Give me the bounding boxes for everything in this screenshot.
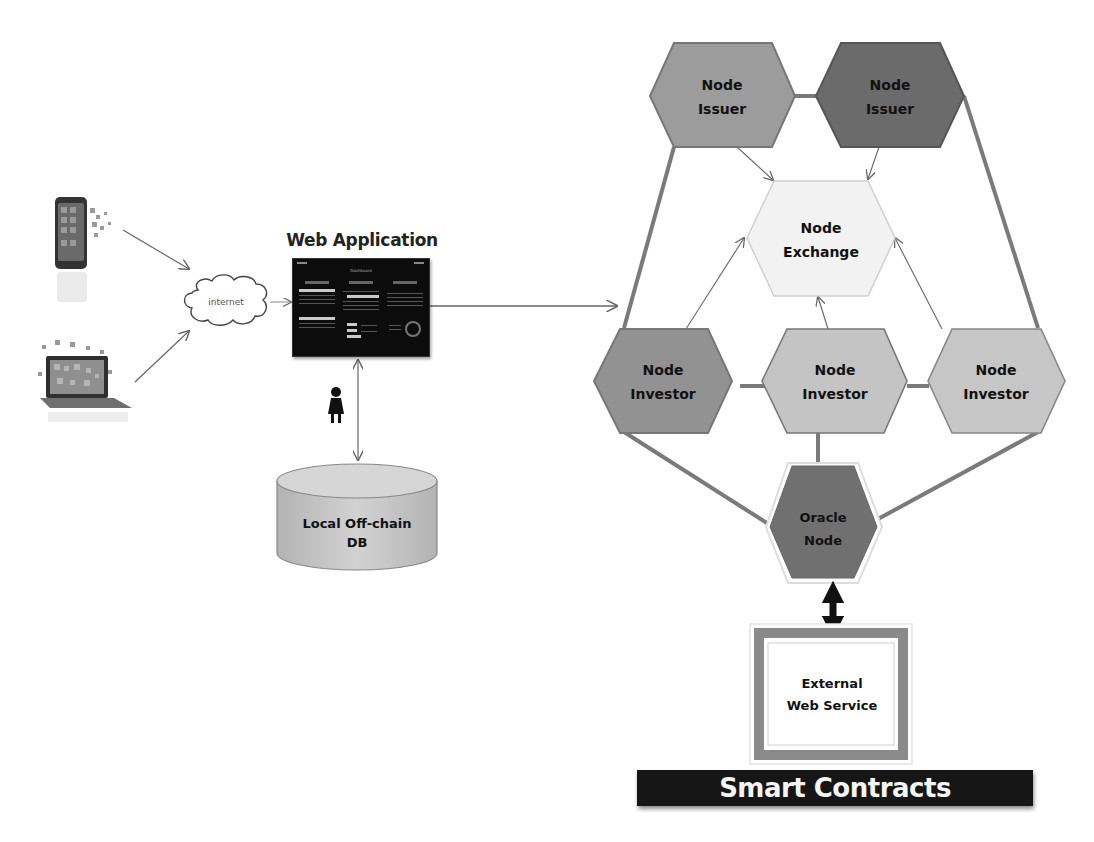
svg-text:Node: Node <box>643 362 684 378</box>
smart-contracts-bar: Smart Contracts <box>637 770 1033 806</box>
svg-text:Node: Node <box>870 77 911 93</box>
webapp-panel-left <box>299 281 335 345</box>
external-web-service-box: External Web Service <box>750 624 912 764</box>
node-issuer-right: Node Issuer <box>816 43 964 147</box>
laptop-icon <box>38 340 132 422</box>
svg-text:Node: Node <box>801 220 842 236</box>
web-application-title: Web Application <box>282 230 442 250</box>
database-cylinder: Local Off-chain DB <box>277 464 437 570</box>
webapp-donut-chart <box>405 321 421 337</box>
svg-text:Issuer: Issuer <box>866 101 914 117</box>
web-application-screenshot: Dashboard <box>292 258 430 357</box>
network-links <box>624 96 1038 525</box>
external-service-line1: External <box>801 676 862 691</box>
node-investor-middle: Node Investor <box>762 329 907 433</box>
webapp-panel-right <box>387 281 423 345</box>
external-service-line2: Web Service <box>787 698 878 713</box>
webapp-menu-icon <box>414 262 424 264</box>
internet-label: internet <box>208 297 244 307</box>
node-issuer-left: Node Issuer <box>650 43 795 147</box>
webapp-logo <box>297 262 307 264</box>
webapp-panel-middle <box>343 281 379 345</box>
svg-text:Node: Node <box>976 362 1017 378</box>
node-exchange: Node Exchange <box>747 181 895 296</box>
smartphone-icon <box>55 197 111 302</box>
svg-text:Node: Node <box>702 77 743 93</box>
svg-text:Oracle: Oracle <box>799 510 846 525</box>
node-oracle: Oracle Node <box>766 463 882 583</box>
db-label-line2: DB <box>347 535 368 550</box>
db-label-line1: Local Off-chain <box>302 516 411 531</box>
svg-text:Investor: Investor <box>963 386 1028 402</box>
webapp-dashboard-caption: Dashboard <box>293 268 429 273</box>
svg-text:Node: Node <box>815 362 856 378</box>
smart-contracts-label: Smart Contracts <box>637 770 1033 806</box>
svg-text:Node: Node <box>804 533 842 548</box>
person-icon <box>328 387 344 423</box>
node-investor-right: Node Investor <box>928 329 1065 433</box>
svg-text:Investor: Investor <box>630 386 695 402</box>
phone-to-internet-arrow <box>123 230 189 269</box>
svg-text:Issuer: Issuer <box>698 101 746 117</box>
laptop-to-internet-arrow <box>135 331 189 382</box>
internet-cloud-icon: internet <box>185 275 267 325</box>
svg-text:Investor: Investor <box>802 386 867 402</box>
architecture-diagram: internet Local Off-chain DB <box>0 0 1094 842</box>
svg-text:Exchange: Exchange <box>783 244 859 260</box>
node-investor-left: Node Investor <box>594 329 732 433</box>
